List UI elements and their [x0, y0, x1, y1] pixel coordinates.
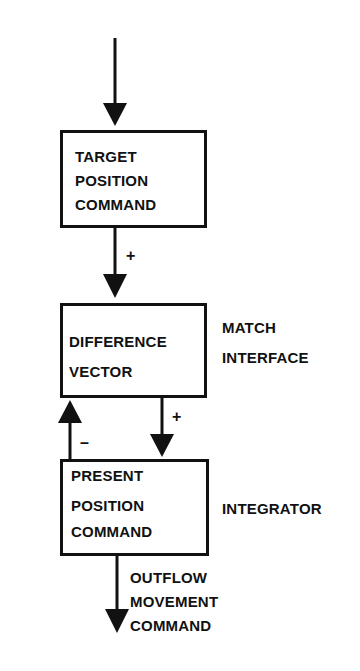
output-label-line: COMMAND: [130, 614, 211, 638]
input-arrow: [103, 38, 127, 126]
box-line: DIFFERENCE: [69, 330, 167, 354]
side-label: INTERFACE: [222, 346, 309, 370]
target-position-command-box: TARGET POSITION COMMAND: [60, 130, 207, 228]
box-line: TARGET: [75, 145, 137, 169]
output-label-line: MOVEMENT: [130, 590, 218, 614]
output-label-line: OUTFLOW: [130, 566, 207, 590]
box-line: POSITION: [71, 494, 144, 518]
box-line: VECTOR: [69, 360, 132, 384]
plus-sign: +: [172, 409, 181, 425]
output-arrow: [105, 555, 129, 633]
side-label: MATCH: [222, 316, 276, 340]
side-label: INTEGRATOR: [222, 497, 322, 521]
difference-to-present-arrow: [150, 397, 174, 457]
box-line: PRESENT: [71, 464, 143, 488]
minus-sign: –: [80, 435, 89, 451]
box-line: POSITION: [75, 169, 148, 193]
present-position-command-box: PRESENT POSITION COMMAND: [60, 459, 209, 556]
target-to-difference-arrow: [103, 227, 127, 298]
present-to-difference-arrow: [58, 400, 82, 459]
box-line: COMMAND: [71, 520, 152, 544]
plus-sign: +: [126, 248, 135, 264]
box-line: COMMAND: [75, 193, 156, 217]
difference-vector-box: DIFFERENCE VECTOR: [60, 303, 207, 398]
